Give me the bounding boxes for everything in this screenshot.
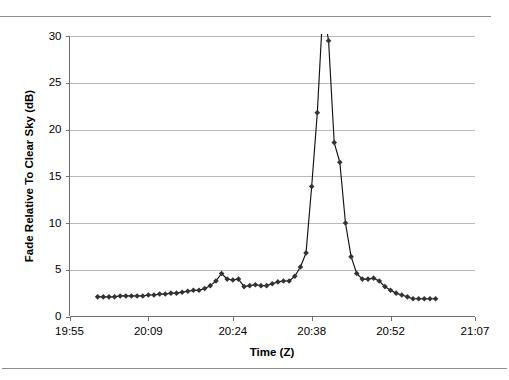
- data-point-marker: [151, 292, 157, 298]
- fade-vs-time-line-chart: 051015202530 19:5520:0920:2420:3820:5221…: [0, 20, 509, 365]
- data-point-marker: [202, 286, 208, 292]
- x-axis-tick-labels: 19:5520:0920:2420:3820:5221:07: [55, 325, 489, 337]
- y-axis-tick-label: 25: [49, 76, 62, 88]
- data-point-marker: [129, 293, 135, 299]
- y-axis-tick-labels: 051015202530: [49, 30, 62, 323]
- data-point-marker: [405, 294, 411, 300]
- data-point-marker: [331, 140, 337, 146]
- page-rule-top: [0, 16, 491, 17]
- data-point-marker: [348, 254, 354, 260]
- data-point-marker: [315, 110, 321, 116]
- y-axis-tick-label: 15: [49, 170, 62, 182]
- data-point-marker: [281, 278, 287, 284]
- data-point-marker: [399, 292, 405, 298]
- x-axis-tick-label: 20:38: [297, 325, 326, 337]
- x-axis-tick-label: 20:09: [134, 325, 163, 337]
- data-point-marker: [185, 288, 191, 294]
- x-axis-tick-label: 20:24: [218, 325, 247, 337]
- data-point-marker: [230, 277, 236, 283]
- data-point-marker: [365, 276, 371, 282]
- data-point-marker: [337, 159, 343, 165]
- data-point-marker: [140, 293, 146, 299]
- data-point-marker: [117, 293, 123, 299]
- fade-series-markers: [95, 38, 439, 302]
- data-point-marker: [258, 283, 264, 289]
- data-point-marker: [106, 294, 112, 300]
- y-axis-tick-label: 30: [49, 30, 62, 42]
- x-axis-tick-label: 19:55: [55, 325, 84, 337]
- data-point-marker: [162, 291, 168, 297]
- y-axis-title: Fade Relative To Clear Sky (dB): [23, 90, 35, 263]
- data-point-marker: [343, 220, 349, 226]
- data-point-marker: [371, 275, 377, 281]
- data-point-marker: [410, 296, 416, 302]
- data-point-marker: [174, 290, 180, 296]
- data-point-marker: [134, 293, 140, 299]
- chart-plot-area: 051015202530 19:5520:0920:2420:3820:5221…: [0, 20, 509, 365]
- data-point-marker: [326, 38, 332, 44]
- data-point-marker: [427, 296, 433, 302]
- axis-tickmarks: [66, 37, 476, 321]
- data-point-marker: [298, 264, 304, 270]
- data-point-marker: [303, 250, 309, 256]
- x-axis-title: Time (Z): [250, 346, 295, 358]
- x-axis-tick-label: 21:07: [461, 325, 490, 337]
- data-point-marker: [196, 288, 202, 294]
- data-point-marker: [309, 184, 315, 190]
- fade-series-line: [98, 20, 436, 299]
- data-point-marker: [146, 292, 152, 298]
- y-axis-tick-label: 0: [55, 310, 61, 322]
- data-point-marker: [247, 283, 253, 289]
- figure-container: 051015202530 19:5520:0920:2420:3820:5221…: [0, 0, 509, 380]
- y-axis-tick-label: 10: [49, 217, 62, 229]
- page-rule-bottom: [2, 368, 507, 369]
- data-point-marker: [112, 294, 118, 300]
- data-point-marker: [95, 294, 101, 300]
- y-axis-tick-label: 5: [55, 263, 61, 275]
- data-point-marker: [264, 283, 270, 289]
- data-point-marker: [179, 289, 185, 295]
- data-point-marker: [422, 296, 428, 302]
- data-point-marker: [275, 279, 281, 285]
- data-point-marker: [100, 294, 106, 300]
- data-point-marker: [393, 290, 399, 296]
- data-point-marker: [253, 282, 259, 288]
- data-point-marker: [123, 293, 129, 299]
- y-axis-tick-label: 20: [49, 123, 62, 135]
- data-point-marker: [269, 281, 275, 287]
- data-point-marker: [433, 296, 439, 302]
- x-axis-tick-label: 20:52: [376, 325, 405, 337]
- gridlines: [70, 37, 476, 271]
- data-point-marker: [191, 288, 197, 294]
- data-point-marker: [416, 296, 422, 302]
- data-point-marker: [168, 290, 174, 296]
- data-point-marker: [157, 291, 163, 297]
